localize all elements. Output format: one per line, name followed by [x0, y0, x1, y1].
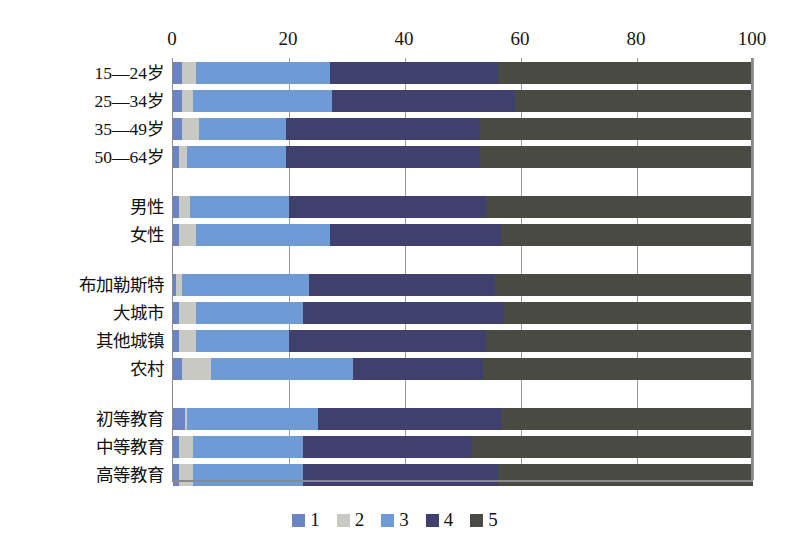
- legend-item-1[interactable]: 1: [292, 510, 320, 530]
- bar-segment-series-4-row-11[interactable]: [303, 436, 471, 458]
- bar-segment-series-4-row-5[interactable]: [330, 224, 501, 246]
- bar-row-12[interactable]: [173, 464, 753, 486]
- category-label-8: 其他城镇: [96, 332, 164, 350]
- plot-area: [172, 58, 753, 480]
- bar-row-11[interactable]: [173, 436, 753, 458]
- bar-segment-series-2-row-1[interactable]: [182, 90, 194, 112]
- bar-segment-series-4-row-9[interactable]: [353, 358, 484, 380]
- bar-segment-series-5-row-11[interactable]: [472, 436, 753, 458]
- bar-segment-series-3-row-2[interactable]: [199, 118, 286, 140]
- bar-row-3[interactable]: [173, 146, 753, 168]
- bar-segment-series-3-row-3[interactable]: [187, 146, 286, 168]
- bar-segment-series-4-row-4[interactable]: [289, 196, 486, 218]
- legend-swatch-1: [292, 514, 305, 527]
- bar-segment-series-2-row-11[interactable]: [179, 436, 194, 458]
- category-label-10: 初等教育: [96, 410, 164, 428]
- category-label-12: 高等教育: [96, 466, 164, 484]
- bar-segment-series-3-row-5[interactable]: [196, 224, 329, 246]
- bar-row-0[interactable]: [173, 62, 753, 84]
- bar-segment-series-3-row-6[interactable]: [182, 274, 310, 296]
- category-label-4: 男性: [130, 198, 164, 216]
- legend-label-3: 3: [399, 510, 409, 530]
- bar-row-5[interactable]: [173, 224, 753, 246]
- bar-segment-series-1-row-9[interactable]: [173, 358, 182, 380]
- plot-frame-bottom-axis: [172, 480, 753, 482]
- bar-segment-series-1-row-10[interactable]: [173, 408, 185, 430]
- category-label-9: 农村: [130, 360, 164, 378]
- bar-segment-series-4-row-6[interactable]: [309, 274, 495, 296]
- bar-segment-series-5-row-4[interactable]: [486, 196, 753, 218]
- bar-segment-series-4-row-7[interactable]: [303, 302, 503, 324]
- bar-segment-series-4-row-3[interactable]: [286, 146, 480, 168]
- bar-segment-series-5-row-10[interactable]: [501, 408, 753, 430]
- bar-segment-series-3-row-0[interactable]: [196, 62, 329, 84]
- bar-segment-series-5-row-12[interactable]: [498, 464, 753, 486]
- bar-segment-series-2-row-5[interactable]: [179, 224, 196, 246]
- bar-segment-series-2-row-9[interactable]: [182, 358, 211, 380]
- bar-segment-series-4-row-2[interactable]: [286, 118, 480, 140]
- bar-segment-series-5-row-3[interactable]: [480, 146, 753, 168]
- bar-segment-series-5-row-9[interactable]: [483, 358, 753, 380]
- bar-segment-series-2-row-3[interactable]: [179, 146, 188, 168]
- bar-segment-series-5-row-0[interactable]: [498, 62, 753, 84]
- bar-segment-series-3-row-9[interactable]: [211, 358, 353, 380]
- bar-segment-series-5-row-1[interactable]: [515, 90, 753, 112]
- bar-segment-series-4-row-12[interactable]: [303, 464, 497, 486]
- bar-segment-series-5-row-2[interactable]: [480, 118, 753, 140]
- bar-segment-series-3-row-4[interactable]: [190, 196, 289, 218]
- bar-row-9[interactable]: [173, 358, 753, 380]
- bar-segment-series-2-row-0[interactable]: [182, 62, 197, 84]
- bar-segment-series-5-row-5[interactable]: [501, 224, 753, 246]
- x-tick-label-60: 60: [511, 28, 530, 50]
- stacked-bar-chart: 020406080100 15—24岁25—34岁35—49岁50—64岁男性女…: [0, 0, 790, 559]
- bar-segment-series-1-row-0[interactable]: [173, 62, 182, 84]
- bar-segment-series-2-row-2[interactable]: [182, 118, 199, 140]
- x-tick-label-80: 80: [627, 28, 646, 50]
- bar-row-2[interactable]: [173, 118, 753, 140]
- bar-segment-series-5-row-6[interactable]: [495, 274, 753, 296]
- bar-row-7[interactable]: [173, 302, 753, 324]
- bar-segment-series-3-row-1[interactable]: [193, 90, 332, 112]
- bar-segment-series-5-row-8[interactable]: [486, 330, 753, 352]
- legend-item-4[interactable]: 4: [426, 510, 454, 530]
- bar-segment-series-1-row-2[interactable]: [173, 118, 182, 140]
- category-label-5: 女性: [130, 226, 164, 244]
- bar-segment-series-4-row-1[interactable]: [332, 90, 515, 112]
- bar-segment-series-3-row-11[interactable]: [193, 436, 303, 458]
- bar-segment-series-4-row-8[interactable]: [289, 330, 486, 352]
- category-label-0: 15—24岁: [95, 64, 165, 82]
- category-label-6: 布加勒斯特: [79, 276, 164, 294]
- legend-label-4: 4: [444, 510, 454, 530]
- y-axis-category-labels: 15—24岁25—34岁35—49岁50—64岁男性女性布加勒斯特大城市其他城镇…: [0, 0, 170, 559]
- legend-item-5[interactable]: 5: [470, 510, 498, 530]
- legend-swatch-3: [381, 514, 394, 527]
- plot-frame-right-axis: [751, 58, 753, 481]
- legend-item-2[interactable]: 2: [337, 510, 365, 530]
- bar-segment-series-5-row-7[interactable]: [504, 302, 753, 324]
- bar-segment-series-3-row-7[interactable]: [196, 302, 303, 324]
- legend-label-1: 1: [310, 510, 320, 530]
- bar-row-6[interactable]: [173, 274, 753, 296]
- legend-swatch-5: [470, 514, 483, 527]
- bar-segment-series-4-row-10[interactable]: [318, 408, 501, 430]
- bar-segment-series-2-row-12[interactable]: [179, 464, 194, 486]
- legend-swatch-2: [337, 514, 350, 527]
- bar-segment-series-2-row-8[interactable]: [179, 330, 196, 352]
- x-tick-label-40: 40: [395, 28, 414, 50]
- bar-row-8[interactable]: [173, 330, 753, 352]
- bar-segment-series-1-row-1[interactable]: [173, 90, 182, 112]
- bar-row-1[interactable]: [173, 90, 753, 112]
- x-tick-label-20: 20: [279, 28, 298, 50]
- bar-segment-series-4-row-0[interactable]: [330, 62, 498, 84]
- bar-row-10[interactable]: [173, 408, 753, 430]
- category-label-7: 大城市: [113, 304, 164, 322]
- bar-row-4[interactable]: [173, 196, 753, 218]
- bar-segment-series-3-row-12[interactable]: [193, 464, 303, 486]
- category-label-2: 35—49岁: [95, 120, 165, 138]
- category-label-3: 50—64岁: [95, 148, 165, 166]
- bar-segment-series-3-row-10[interactable]: [187, 408, 318, 430]
- bar-segment-series-2-row-4[interactable]: [179, 196, 191, 218]
- bar-segment-series-2-row-7[interactable]: [179, 302, 196, 324]
- bar-segment-series-3-row-8[interactable]: [196, 330, 289, 352]
- legend-item-3[interactable]: 3: [381, 510, 409, 530]
